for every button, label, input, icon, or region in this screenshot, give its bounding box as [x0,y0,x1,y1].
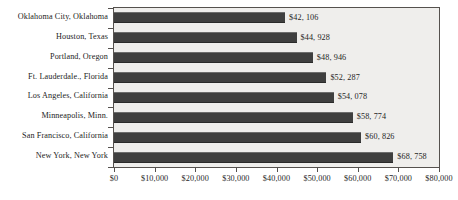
x-axis-tick [439,168,440,172]
y-axis-tick [108,8,113,9]
x-axis-label: $80,000 [425,174,452,184]
x-axis-tick [358,168,359,172]
x-axis-label: $10,000 [141,174,168,184]
y-axis-tick [108,107,113,108]
category-axis-labels: Oklahoma City, OklahomaHouston, TexasPor… [0,7,108,168]
x-axis-tick [398,168,399,172]
x-axis-tick [195,168,196,172]
bar-value-label: $42, 106 [289,13,318,23]
x-axis-label: $20,000 [182,174,209,184]
bar-value-label: $68, 758 [397,152,426,162]
y-axis-tick [108,147,113,148]
x-axis-label: $70,000 [385,174,412,184]
bar-value-label: $60, 826 [365,132,394,142]
bars-container [114,8,439,167]
category-label: Los Angeles, California [0,91,108,101]
x-axis-label: $40,000 [263,174,290,184]
x-axis-label: $0 [110,174,118,184]
bar-chart: Oklahoma City, OklahomaHouston, TexasPor… [0,0,458,200]
category-label: Portland, Oregon [0,52,108,62]
y-axis-tick [108,28,113,29]
x-axis-tick [317,168,318,172]
category-label: Houston, Texas [0,32,108,42]
y-axis-tick [108,68,113,69]
bar-value-label: $58, 774 [357,112,386,122]
y-axis-tick [108,127,113,128]
bar [114,132,361,143]
x-axis-tick [155,168,156,172]
x-axis-label: $30,000 [222,174,249,184]
category-label: Ft. Lauderdale., Florida [0,72,108,82]
bar-value-label: $44, 928 [301,33,330,43]
category-label: San Francisco, California [0,131,108,141]
bar-value-label: $48, 946 [317,53,346,63]
x-axis-label: $50,000 [303,174,330,184]
x-axis-tick [236,168,237,172]
category-label: New York, New York [0,151,108,161]
bar-value-label: $54, 078 [338,92,367,102]
bar [114,152,393,163]
bar [114,112,353,123]
bar-value-label: $52, 287 [330,73,359,83]
bar [114,32,297,43]
y-axis-tick [108,167,113,168]
bar [114,12,285,23]
y-axis-tick [108,48,113,49]
x-axis-tick [277,168,278,172]
x-axis-label: $60,000 [344,174,371,184]
bar [114,92,334,103]
y-axis-tick [108,88,113,89]
x-axis-tick [114,168,115,172]
category-label: Oklahoma City, Oklahoma [0,12,108,22]
bar [114,52,313,63]
bar [114,72,326,83]
category-label: Minneapolis, Minn. [0,111,108,121]
